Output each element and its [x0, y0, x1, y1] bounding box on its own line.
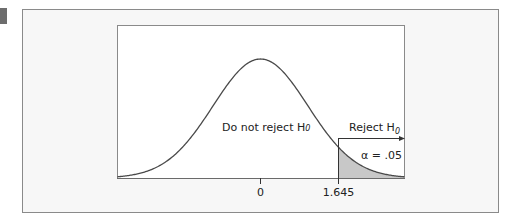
normal-distribution-chart: 0 1.645 Do not reject H0 Reject H0 α = .… [0, 0, 522, 223]
do-not-reject-sub: 0 [305, 124, 310, 133]
tick-label-zero: 0 [257, 186, 264, 199]
tick-label-critical: 1.645 [323, 186, 355, 199]
do-not-reject-label: Do not reject H0 [222, 121, 310, 134]
alpha-label: α = .05 [361, 149, 402, 162]
reject-label: Reject H0 [349, 121, 400, 136]
